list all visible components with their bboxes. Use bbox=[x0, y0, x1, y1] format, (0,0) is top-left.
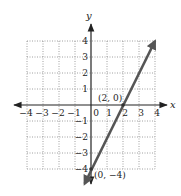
y-tick-label: −3 bbox=[75, 148, 89, 158]
x-tick-label: −4 bbox=[19, 108, 33, 118]
origin-label: 0 bbox=[93, 108, 99, 118]
y-tick-label: 3 bbox=[82, 52, 88, 62]
chart-svg: x y −4−3−2−1123401234−1−2−3−4 (2, 0) (0,… bbox=[0, 0, 181, 196]
x-tick-label: −2 bbox=[51, 108, 64, 118]
y-tick-label: 4 bbox=[82, 36, 88, 46]
y-tick-label: −4 bbox=[75, 164, 89, 174]
y-intercept-point bbox=[89, 167, 93, 171]
coordinate-plane-chart: x y −4−3−2−1123401234−1−2−3−4 (2, 0) (0,… bbox=[0, 0, 181, 196]
y-intercept-label: (0, −4) bbox=[94, 170, 126, 180]
x-axis-label: x bbox=[170, 99, 176, 110]
x-intercept-point bbox=[121, 103, 125, 107]
y-axis-label: y bbox=[85, 10, 92, 21]
y-tick-label: 2 bbox=[82, 68, 88, 78]
y-tick-label: −1 bbox=[75, 116, 88, 126]
x-tick-label: 3 bbox=[138, 108, 144, 118]
y-tick-label: −2 bbox=[75, 132, 88, 142]
x-tick-label: 4 bbox=[154, 108, 160, 118]
x-tick-label: 1 bbox=[106, 108, 112, 118]
x-tick-label: 2 bbox=[122, 108, 128, 118]
x-intercept-label: (2, 0) bbox=[98, 93, 122, 103]
y-tick-label: 1 bbox=[82, 84, 88, 94]
x-tick-label: −3 bbox=[35, 108, 49, 118]
